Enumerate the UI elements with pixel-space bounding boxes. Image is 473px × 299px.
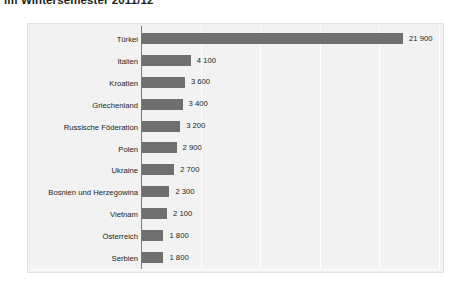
bar[interactable] bbox=[142, 230, 163, 241]
bar[interactable] bbox=[142, 99, 183, 110]
category-label: Griechenland bbox=[28, 102, 138, 110]
bar-rows: Türkei21 900Italien4 100Kroatien3 600Gri… bbox=[28, 29, 443, 270]
bar-value-label: 2 300 bbox=[175, 188, 194, 196]
bar-row: Österreich1 800 bbox=[28, 226, 443, 248]
bar-container: 4 100 bbox=[142, 55, 216, 66]
bar[interactable] bbox=[142, 121, 180, 132]
bar-row: Griechenland3 400 bbox=[28, 95, 443, 117]
category-label: Bosnien und Herzegowina bbox=[28, 189, 138, 197]
bar-container: 2 100 bbox=[142, 208, 192, 219]
bar-container: 3 400 bbox=[142, 99, 208, 110]
category-label: Türkei bbox=[28, 36, 138, 44]
bar-value-label: 2 900 bbox=[183, 144, 202, 152]
bar-container: 2 300 bbox=[142, 186, 195, 197]
category-label: Italien bbox=[28, 58, 138, 66]
bar-container: 1 800 bbox=[142, 252, 189, 263]
bar-container: 1 800 bbox=[142, 230, 189, 241]
bar[interactable] bbox=[142, 33, 403, 44]
bar-row: Vietnam2 100 bbox=[28, 204, 443, 226]
bar-value-label: 4 100 bbox=[197, 57, 216, 65]
bar-row: Russische Föderation3 200 bbox=[28, 117, 443, 139]
bar-value-label: 1 800 bbox=[169, 254, 188, 262]
category-label: Russische Föderation bbox=[28, 124, 138, 132]
bar-container: 21 900 bbox=[142, 33, 433, 44]
bar[interactable] bbox=[142, 55, 191, 66]
bar-row: Kroatien3 600 bbox=[28, 73, 443, 95]
bar-row: Türkei21 900 bbox=[28, 29, 443, 51]
bar-row: Bosnien und Herzegowina2 300 bbox=[28, 182, 443, 204]
category-label: Österreich bbox=[28, 233, 138, 241]
bar-row: Serbien1 800 bbox=[28, 248, 443, 270]
bar[interactable] bbox=[142, 77, 185, 88]
bar-value-label: 2 100 bbox=[173, 210, 192, 218]
bar-value-label: 2 700 bbox=[180, 166, 199, 174]
bar[interactable] bbox=[142, 142, 177, 153]
bar[interactable] bbox=[142, 164, 174, 175]
chart-panel: Türkei21 900Italien4 100Kroatien3 600Gri… bbox=[27, 23, 444, 273]
bar-container: 3 200 bbox=[142, 121, 205, 132]
bar-value-label: 3 400 bbox=[189, 100, 208, 108]
bar-container: 2 900 bbox=[142, 142, 202, 153]
category-label: Kroatien bbox=[28, 80, 138, 88]
bar[interactable] bbox=[142, 252, 163, 263]
bar-container: 3 600 bbox=[142, 77, 210, 88]
category-label: Polen bbox=[28, 146, 138, 154]
category-label: Serbien bbox=[28, 255, 138, 263]
bar-container: 2 700 bbox=[142, 164, 199, 175]
bar-value-label: 3 600 bbox=[191, 78, 210, 86]
bar-row: Polen2 900 bbox=[28, 138, 443, 160]
category-label: Ukraine bbox=[28, 167, 138, 175]
bar-value-label: 3 200 bbox=[186, 122, 205, 130]
bar[interactable] bbox=[142, 186, 169, 197]
bar-row: Ukraine2 700 bbox=[28, 160, 443, 182]
bar-value-label: 1 800 bbox=[169, 232, 188, 240]
bar-value-label: 21 900 bbox=[409, 35, 433, 43]
page-title: im Wintersemester 2011/12 bbox=[4, 0, 153, 6]
bar-row: Italien4 100 bbox=[28, 51, 443, 73]
category-label: Vietnam bbox=[28, 211, 138, 219]
bar[interactable] bbox=[142, 208, 167, 219]
